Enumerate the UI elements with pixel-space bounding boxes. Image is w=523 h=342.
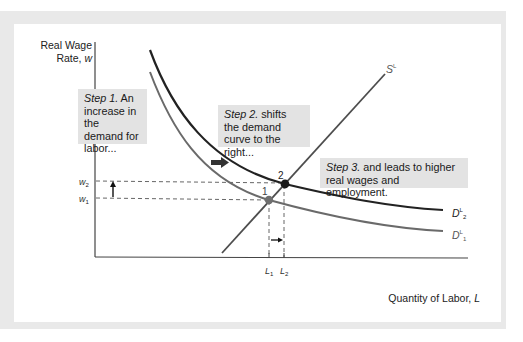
- l1-label: L1: [265, 264, 273, 281]
- x-axis: [95, 257, 468, 258]
- l2-label: L2: [280, 264, 288, 281]
- step-3-note: Step 3. and leads to higher real wages a…: [320, 158, 468, 188]
- supply-curve-label: SL: [386, 60, 396, 76]
- x-axis-var: L: [474, 292, 480, 304]
- y-axis-label-line1: Real Wage: [40, 39, 92, 51]
- y-axis-label: Real Wage Rate, w: [40, 39, 92, 64]
- y-axis-var: w: [84, 52, 92, 64]
- wage-up-arrow-icon: [110, 181, 116, 197]
- labor-right-arrow-icon: [271, 238, 283, 243]
- x-axis-label: Quantity of Labor, L: [370, 292, 480, 305]
- demand-curve-1-label: DL1: [452, 226, 466, 246]
- step-1-note: Step 1. An increase in the demand for la…: [78, 89, 147, 144]
- point-1-label: 1: [262, 186, 268, 199]
- w1-label: w1: [79, 192, 89, 209]
- x-axis-label-text: Quantity of Labor,: [388, 292, 474, 304]
- demand-curve-1: [150, 72, 443, 231]
- demand-curve-2-label: DL2: [452, 204, 466, 224]
- w2-guide: [96, 181, 285, 183]
- point-2-label: 2: [278, 170, 284, 183]
- y-axis-label-line2: Rate,: [56, 52, 84, 64]
- step-2-note: Step 2. shifts the demand curve to the r…: [218, 105, 310, 147]
- w1-guide: [96, 198, 269, 200]
- w2-label: w2: [79, 175, 89, 192]
